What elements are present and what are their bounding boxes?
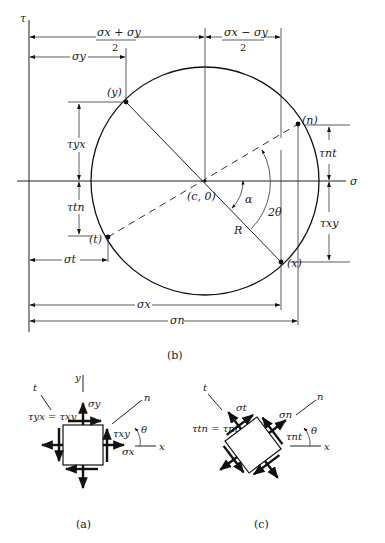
mohr-circle-figure: τ σ (y) (n) (t) (x) (c, 0) α 2θ R bbox=[0, 0, 385, 543]
stress-element-square bbox=[63, 425, 103, 465]
caption-a: (a) bbox=[76, 518, 91, 531]
axis-y-label: y bbox=[74, 372, 81, 383]
sigma-x-label-a: σx bbox=[122, 446, 135, 457]
panel-c-rotated-element: t τtn = τnt σt σn τnt n x θ (c) bbox=[192, 382, 330, 531]
tau-xy-label-a: τxy bbox=[113, 428, 130, 439]
tau-xy-dimension: τxy bbox=[320, 217, 339, 230]
axis-t-label-c: t bbox=[203, 382, 208, 393]
caption-b: (b) bbox=[167, 349, 183, 362]
two-theta-label: 2θ bbox=[267, 206, 282, 219]
mean-stress-denominator: 2 bbox=[112, 42, 118, 53]
caption-c: (c) bbox=[254, 518, 269, 531]
point-x-label: (x) bbox=[287, 257, 302, 270]
half-diff-denominator: 2 bbox=[240, 42, 246, 53]
theta-label-c: θ bbox=[311, 425, 317, 436]
point-t-label: (t) bbox=[89, 233, 102, 246]
axis-x-label-a: x bbox=[159, 441, 165, 452]
sigma-n-label-c: σn bbox=[279, 409, 292, 420]
axis-x-label-c: x bbox=[324, 441, 330, 452]
alpha-arc bbox=[232, 181, 243, 208]
sigma-axis-label: σ bbox=[350, 175, 358, 188]
tau-tn-dimension: τtn bbox=[67, 201, 85, 214]
sigma-x-dimension: σx bbox=[137, 298, 152, 311]
tau-nt-label-c: τnt bbox=[286, 431, 303, 442]
sigma-n-dimension: σn bbox=[170, 314, 185, 327]
axis-t-label-a: t bbox=[33, 382, 38, 393]
half-diff-numerator: σx − σy bbox=[224, 26, 268, 39]
sigma-t-label-c: σt bbox=[236, 402, 248, 413]
diameter-xy bbox=[126, 102, 281, 262]
point-y-label: (y) bbox=[107, 86, 122, 99]
sigma-y-label-a: σy bbox=[88, 398, 101, 409]
theta-label-a: θ bbox=[141, 424, 147, 435]
axis-n-label-c: n bbox=[317, 391, 323, 402]
equation-c: τtn = τnt bbox=[192, 423, 240, 434]
center-label: (c, 0) bbox=[187, 190, 216, 203]
panel-a-stress-element: y t τyx = τxy σy τxy σx n x θ (a) bbox=[28, 372, 165, 531]
axis-n-label-a: n bbox=[144, 392, 150, 403]
tau-nt-dimension: τnt bbox=[319, 147, 337, 160]
panel-b-mohr-circle: τ σ (y) (n) (t) (x) (c, 0) α 2θ R bbox=[17, 12, 358, 362]
tau-yx-dimension: τyx bbox=[67, 138, 86, 151]
radius-label: R bbox=[233, 224, 242, 237]
sigma-y-dimension: σy bbox=[72, 50, 87, 63]
alpha-label: α bbox=[245, 193, 253, 206]
mean-stress-numerator: σx + σy bbox=[97, 26, 141, 39]
sigma-t-dimension: σt bbox=[64, 253, 77, 266]
tau-axis-label: τ bbox=[20, 12, 27, 25]
